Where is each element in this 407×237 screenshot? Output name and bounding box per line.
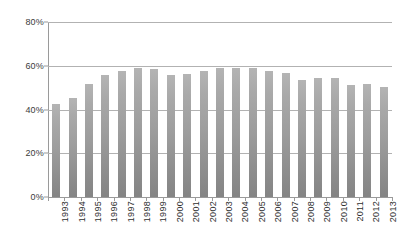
x-axis-labels: 1993199419951996199719981999200020012002…: [48, 201, 392, 237]
bar[interactable]: [52, 104, 60, 197]
bar[interactable]: [347, 85, 355, 197]
x-tick-label: 1995: [93, 201, 103, 222]
bar[interactable]: [265, 71, 273, 197]
x-tick-label: 2008: [306, 201, 316, 222]
bar[interactable]: [101, 75, 109, 197]
bar[interactable]: [314, 78, 322, 197]
x-tick-label: 2006: [273, 201, 283, 222]
bar[interactable]: [69, 98, 77, 197]
x-tick-label: 1996: [109, 201, 119, 222]
y-tick-label: 20%: [2, 148, 44, 158]
bar[interactable]: [134, 68, 142, 197]
y-tick-label: 40%: [2, 105, 44, 115]
x-tick-label: 2000: [175, 201, 185, 222]
y-axis-labels: 0%20%40%60%80%: [0, 22, 44, 197]
bar[interactable]: [380, 87, 388, 197]
x-tick-label: 2003: [224, 201, 234, 222]
x-tick-label: 2011: [355, 201, 365, 222]
x-tick-label: 1997: [126, 201, 136, 222]
x-tick-label: 2013: [388, 201, 398, 222]
y-tick-label: 0%: [2, 192, 44, 202]
x-tick-label: 2007: [290, 201, 300, 222]
bar[interactable]: [363, 84, 371, 197]
bar[interactable]: [118, 71, 126, 197]
x-tick-label: 1994: [77, 201, 87, 222]
x-tick-label: 2001: [191, 201, 201, 222]
bar[interactable]: [249, 68, 257, 197]
x-tick-label: 2004: [240, 201, 250, 222]
bar[interactable]: [167, 75, 175, 197]
bar-series: [48, 22, 392, 197]
bar[interactable]: [232, 68, 240, 197]
y-tick-label: 80%: [2, 17, 44, 27]
y-tick-label: 60%: [2, 61, 44, 71]
bar-chart: 0%20%40%60%80% 1993199419951996199719981…: [0, 0, 407, 237]
x-tick-label: 2005: [257, 201, 267, 222]
x-tick-label: 2009: [322, 201, 332, 222]
bar[interactable]: [282, 73, 290, 197]
x-tick-label: 2012: [371, 201, 381, 222]
bar[interactable]: [85, 84, 93, 197]
x-tick-label: 2002: [208, 201, 218, 222]
x-tick-label: 1998: [142, 201, 152, 222]
bar[interactable]: [216, 68, 224, 197]
bar[interactable]: [298, 80, 306, 197]
x-tick-label: 2010: [339, 201, 349, 222]
x-tick-label: 1993: [60, 201, 70, 222]
bar[interactable]: [150, 69, 158, 197]
bar[interactable]: [331, 78, 339, 197]
bar[interactable]: [183, 74, 191, 197]
x-tick-label: 1999: [158, 201, 168, 222]
bar[interactable]: [200, 71, 208, 197]
